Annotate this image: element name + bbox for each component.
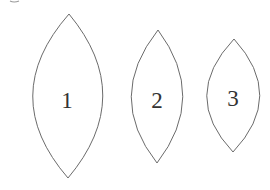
lens-label-2: 2 xyxy=(151,88,163,113)
lens-shape-1: 1 xyxy=(33,14,103,178)
lens-shape-3: 3 xyxy=(207,39,260,152)
lens-label-1: 1 xyxy=(61,88,73,113)
lens-label-3: 3 xyxy=(227,86,239,111)
cropped-text-fragment xyxy=(10,1,19,2)
lens-diagram: 1 2 3 xyxy=(0,0,270,190)
lens-shape-2: 2 xyxy=(131,30,183,163)
